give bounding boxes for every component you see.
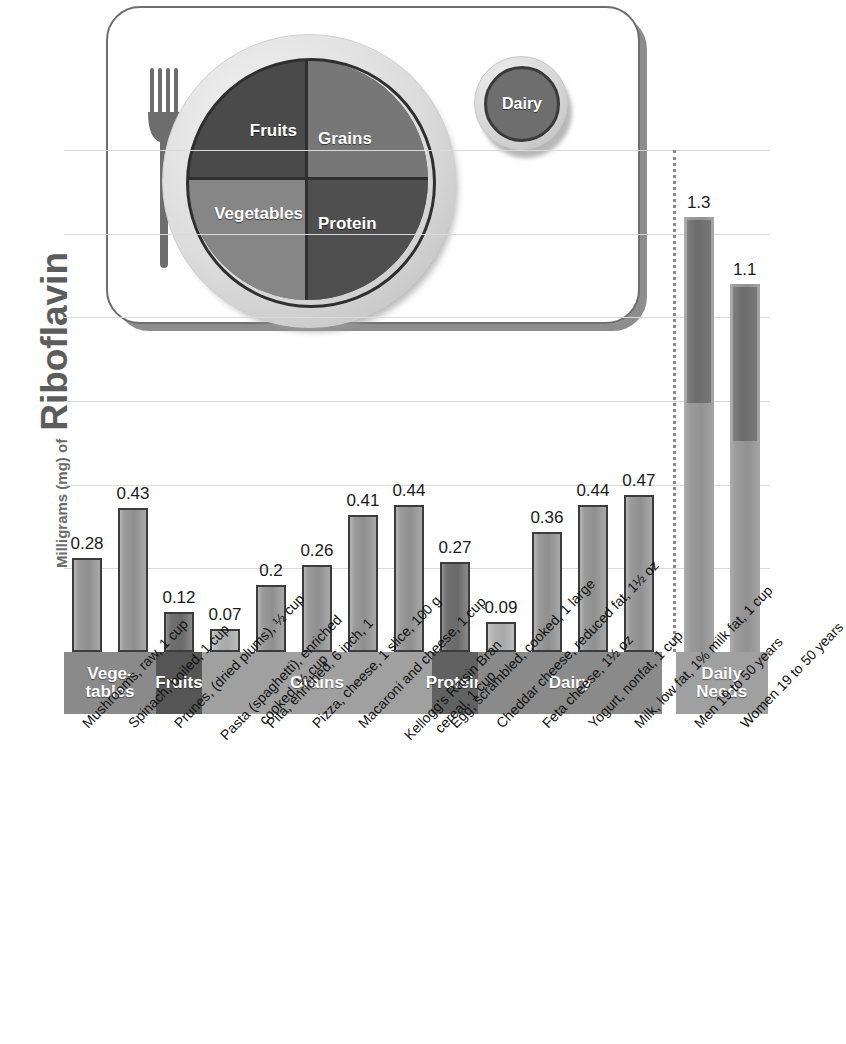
- bar-value-label-6: 0.41: [337, 491, 389, 511]
- bar-value-label-7: 0.44: [383, 481, 435, 501]
- plate-label-grains: Grains: [318, 129, 372, 149]
- bar-cap-13: [687, 220, 711, 403]
- chart-plot-area: 0.280.430.120.070.20.260.410.440.270.090…: [64, 150, 770, 652]
- bar-0[interactable]: [72, 558, 102, 652]
- dairy-fill: Dairy: [484, 66, 560, 142]
- bar-1[interactable]: [118, 508, 148, 652]
- bar-value-label-13: 1.3: [673, 193, 725, 213]
- bar-value-label-8: 0.27: [429, 538, 481, 558]
- bar-value-label-0: 0.28: [61, 534, 113, 554]
- plate-label-fruits: Fruits: [250, 121, 297, 141]
- bar-cap-14: [733, 287, 757, 442]
- bar-value-label-1: 0.43: [107, 484, 159, 504]
- bar-value-label-10: 0.36: [521, 508, 573, 528]
- daily-needs-divider: [673, 150, 676, 652]
- plate-label-dairy: Dairy: [502, 95, 542, 113]
- bar-value-label-3: 0.07: [199, 605, 251, 625]
- bar-value-label-2: 0.12: [153, 588, 205, 608]
- bar-13[interactable]: [684, 217, 714, 652]
- gridline-3: [64, 317, 770, 318]
- bar-value-label-4: 0.2: [245, 561, 297, 581]
- x-axis-labels: Mushrooms, raw, 1 cupSpinach, boiled, 1 …: [0, 716, 770, 1044]
- gridline-5: [64, 150, 770, 151]
- bar-value-label-5: 0.26: [291, 541, 343, 561]
- bar-value-label-12: 0.47: [613, 471, 665, 491]
- gridline-2: [64, 401, 770, 402]
- dairy-cup: Dairy: [474, 56, 568, 150]
- gridline-4: [64, 234, 770, 235]
- bar-value-label-14: 1.1: [719, 260, 771, 280]
- bar-value-label-11: 0.44: [567, 481, 619, 501]
